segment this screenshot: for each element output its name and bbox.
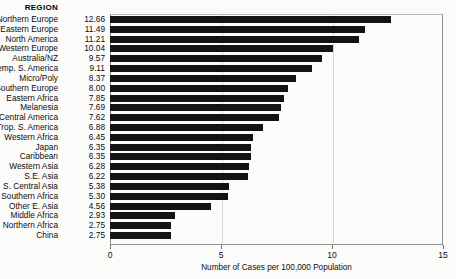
category-label: Melanesia: [20, 103, 58, 112]
bar: [110, 173, 248, 180]
data-value-label: 2.75: [75, 221, 105, 230]
bar: [110, 36, 359, 43]
data-value-label: 6.35: [75, 143, 105, 152]
bar: [110, 232, 171, 239]
category-label: Western Africa: [4, 133, 58, 142]
category-label-column: REGION Northern Europe12.66Eastern Europ…: [0, 0, 110, 250]
data-value-label: 10.04: [75, 44, 105, 53]
bar-chart: REGION Northern Europe12.66Eastern Europ…: [0, 0, 456, 279]
bar: [110, 153, 251, 160]
x-axis-tick-label: 5: [209, 250, 233, 260]
category-label: Eastern Europe: [0, 25, 58, 34]
data-value-label: 5.30: [75, 192, 105, 201]
data-value-label: 4.56: [75, 202, 105, 211]
bar: [110, 144, 251, 151]
bar: [110, 193, 228, 200]
bar: [110, 75, 296, 82]
category-label: Micro/Poly: [19, 74, 58, 83]
data-value-label: 8.00: [75, 84, 105, 93]
bar: [110, 45, 333, 52]
category-label: Japan: [35, 143, 58, 152]
category-label: Middle Africa: [11, 211, 59, 220]
data-value-label: 6.35: [75, 152, 105, 161]
bar: [110, 203, 211, 210]
category-label: Northern Europe: [0, 15, 58, 24]
bar: [110, 104, 281, 111]
category-label: S. Central Asia: [3, 182, 58, 191]
x-axis-tick: [110, 245, 111, 249]
category-label: Southern Africa: [1, 192, 58, 201]
category-label: Caribbean: [20, 152, 58, 161]
category-label: Other E. Asia: [9, 202, 58, 211]
bar: [110, 222, 171, 229]
category-label: Eastern Africa: [6, 94, 58, 103]
data-value-label: 7.69: [75, 103, 105, 112]
category-label: Southern Europe: [0, 84, 58, 93]
category-label: Northern Africa: [3, 221, 58, 230]
data-value-label: 9.11: [75, 64, 105, 73]
bar: [110, 212, 175, 219]
bar: [110, 134, 253, 141]
bar: [110, 183, 229, 190]
x-axis-tick: [221, 245, 222, 249]
data-value-label: 7.85: [75, 94, 105, 103]
bar: [110, 55, 322, 62]
x-axis-tick-label: 0: [98, 250, 122, 260]
region-column-header: REGION: [25, 3, 58, 12]
x-axis-tick: [332, 245, 333, 249]
x-axis-title: Number of Cases per 100,000 Population: [110, 263, 443, 272]
data-value-label: 6.88: [75, 123, 105, 132]
bar: [110, 65, 312, 72]
category-label: Temp. S. America: [0, 64, 58, 73]
category-label: Australia/NZ: [12, 54, 58, 63]
data-value-label: 6.22: [75, 172, 105, 181]
category-label: North America: [5, 35, 58, 44]
x-axis-tick-label: 10: [320, 250, 344, 260]
data-value-label: 11.49: [75, 25, 105, 34]
bar: [110, 26, 365, 33]
category-label: Western Europe: [0, 44, 58, 53]
category-label: Trop. S. America: [0, 123, 58, 132]
data-value-label: 11.21: [75, 35, 105, 44]
data-value-label: 2.75: [75, 231, 105, 240]
category-label: Western Asia: [9, 162, 58, 171]
data-value-label: 7.62: [75, 113, 105, 122]
data-value-label: 8.37: [75, 74, 105, 83]
data-value-label: 6.45: [75, 133, 105, 142]
bar: [110, 124, 263, 131]
data-value-label: 5.38: [75, 182, 105, 191]
data-value-label: 2.93: [75, 211, 105, 220]
data-value-label: 12.66: [75, 15, 105, 24]
bars-layer: [110, 14, 443, 245]
x-axis-tick: [443, 245, 444, 249]
category-label: Central America: [0, 113, 58, 122]
category-label: China: [36, 231, 58, 240]
bar: [110, 16, 391, 23]
category-label: S.E. Asia: [24, 172, 58, 181]
bar: [110, 114, 279, 121]
bar: [110, 163, 249, 170]
data-value-label: 6.28: [75, 162, 105, 171]
data-value-label: 9.57: [75, 54, 105, 63]
bar: [110, 85, 288, 92]
bar: [110, 95, 284, 102]
x-axis-tick-label: 15: [431, 250, 455, 260]
